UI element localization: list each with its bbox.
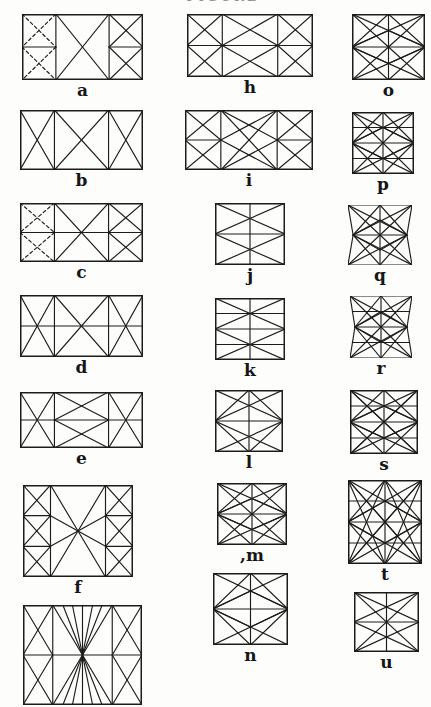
figure-label-f: f (23, 578, 133, 597)
figure-s: s (350, 390, 418, 474)
figure-p-drawing (352, 112, 414, 174)
figure-label-i: i (185, 171, 313, 190)
figure-o: o (352, 14, 425, 100)
figure-label-p: p (352, 175, 414, 194)
figure-l-drawing (215, 390, 283, 452)
figure-i: i (185, 110, 313, 190)
figure-e: e (20, 392, 143, 468)
figure-g-drawing (23, 605, 142, 705)
figure-label-b: b (20, 171, 143, 190)
figure-r-drawing (350, 296, 412, 358)
cropped-header-text-fragment: FIGURE (168, 0, 278, 4)
figure-k-drawing (215, 298, 285, 360)
figure-m: ,m (217, 483, 287, 565)
figure-label-d: d (20, 358, 143, 377)
figure-label-k: k (215, 361, 285, 380)
figure-n: n (213, 573, 288, 665)
cropped-header-text: FIGURE (168, 0, 278, 4)
figure-label-q: q (348, 266, 412, 285)
figure-q-drawing (348, 205, 412, 265)
figure-k: k (215, 298, 285, 380)
figure-label-e: e (20, 449, 143, 468)
figure-label-u: u (354, 653, 419, 672)
figure-q: q (348, 205, 412, 285)
figure-j: j (215, 203, 285, 285)
figure-t-drawing (348, 480, 422, 564)
figure-d: d (20, 295, 143, 377)
figure-t: t (348, 480, 422, 584)
figure-a: a (22, 14, 143, 100)
figure-j-drawing (215, 203, 285, 265)
figure-b-drawing (20, 110, 143, 170)
figure-c: c (20, 203, 143, 282)
figure-o-drawing (352, 14, 425, 80)
figure-g (23, 605, 142, 705)
figure-label-l: l (215, 453, 283, 472)
figure-i-drawing (185, 110, 313, 170)
figure-e-drawing (20, 392, 143, 448)
figure-label-c: c (20, 263, 143, 282)
figure-l: l (215, 390, 283, 472)
figure-m-drawing (217, 483, 287, 545)
figure-label-m: ,m (217, 546, 287, 565)
figure-u-drawing (354, 592, 419, 652)
figure-f: f (23, 485, 133, 597)
figure-n-drawing (213, 573, 288, 645)
figure-label-h: h (187, 78, 313, 97)
figure-c-drawing (20, 203, 143, 262)
figure-label-t: t (348, 565, 422, 584)
figure-u: u (354, 592, 419, 672)
figure-d-drawing (20, 295, 143, 357)
figure-label-a: a (22, 81, 143, 100)
figure-r: r (350, 296, 412, 378)
figure-a-drawing (22, 14, 143, 80)
figure-b: b (20, 110, 143, 190)
figure-label-n: n (213, 646, 288, 665)
figure-label-o: o (352, 81, 425, 100)
figure-h: h (187, 14, 313, 97)
figure-s-drawing (350, 390, 418, 454)
figure-f-drawing (23, 485, 133, 577)
figure-label-r: r (350, 359, 412, 378)
figure-plate: FIGURE abcdefhijkl,mnopqrstu (0, 0, 431, 707)
figure-label-s: s (350, 455, 418, 474)
figure-h-drawing (187, 14, 313, 77)
figure-label-j: j (215, 266, 285, 285)
figure-p: p (352, 112, 414, 194)
